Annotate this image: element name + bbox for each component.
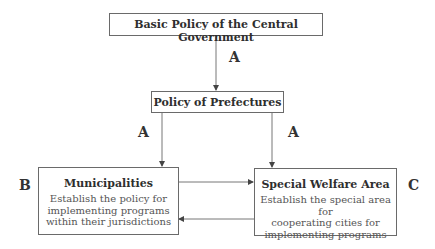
municipalities-box: Municipalities Establish the policy for … <box>38 167 179 235</box>
special-welfare-area-title: Special Welfare Area <box>255 178 396 191</box>
special-welfare-area-box: Special Welfare Area Establish the speci… <box>254 168 397 236</box>
edge-label-a-welfare: A <box>288 124 299 140</box>
municipalities-title: Municipalities <box>39 177 178 190</box>
side-label-c: C <box>408 177 419 193</box>
central-government-title: Basic Policy of the Central Government <box>110 18 322 44</box>
central-government-box: Basic Policy of the Central Government <box>109 13 323 36</box>
edge-label-a-central: A <box>229 49 240 65</box>
municipalities-description: Establish the policy for implementing pr… <box>39 193 178 228</box>
special-welfare-area-description: Establish the special area for cooperati… <box>255 194 396 240</box>
prefectures-title: Policy of Prefectures <box>152 96 283 109</box>
side-label-b: B <box>19 177 31 193</box>
edge-label-a-municipalities: A <box>138 124 149 140</box>
prefectures-box: Policy of Prefectures <box>151 91 284 113</box>
